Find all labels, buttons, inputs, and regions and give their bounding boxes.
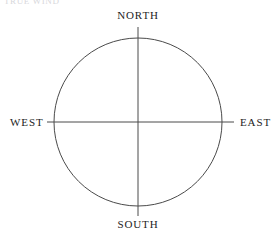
cardinal-label-north: NORTH	[0, 9, 278, 21]
cardinal-label-south: SOUTH	[0, 218, 278, 230]
compass-rose-diagram: TRUE WIND NORTH SOUTH WEST EAST	[0, 0, 278, 235]
cardinal-label-east: EAST	[240, 116, 271, 128]
cardinal-label-west: WEST	[10, 116, 44, 128]
